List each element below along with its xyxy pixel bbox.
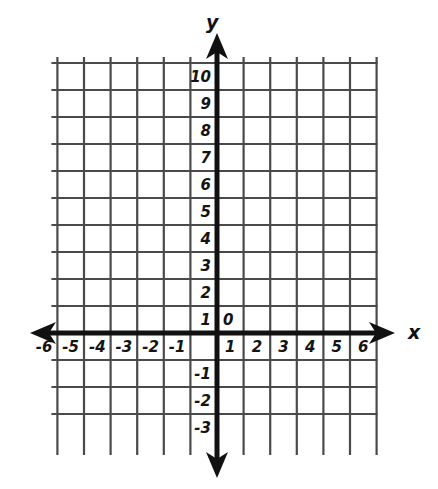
y-tick-label: 5 (201, 204, 211, 219)
y-tick-label: 4 (201, 231, 211, 246)
x-tick-label: -6 (36, 340, 53, 355)
y-tick-label: -2 (194, 393, 211, 408)
x-tick-label: 3 (278, 340, 288, 355)
x-tick-label: 6 (358, 340, 368, 355)
x-tick-label: -4 (89, 340, 106, 355)
y-tick-label: 2 (201, 285, 211, 300)
y-tick-label: 6 (201, 177, 211, 192)
x-tick-label: 5 (331, 340, 341, 355)
x-tick-label: -2 (142, 340, 159, 355)
y-tick-label: 1 (201, 312, 211, 327)
y-tick-label: 9 (201, 96, 211, 111)
y-tick-label: 10 (190, 69, 211, 84)
y-axis-label: y (206, 13, 218, 32)
coordinate-plane-figure: -6-5-4-3-2-1123456 10987654321-1-2-3 x y… (0, 0, 438, 489)
y-tick-label: 8 (201, 123, 211, 138)
x-tick-label: 2 (252, 340, 262, 355)
x-tick-label: -3 (116, 340, 133, 355)
y-tick-label: -1 (194, 366, 211, 381)
grid-and-axes (0, 0, 438, 489)
y-tick-label: 7 (201, 150, 211, 165)
x-axis-label: x (408, 323, 420, 342)
origin-label: 0 (223, 313, 233, 328)
x-tick-label: -5 (62, 340, 79, 355)
x-tick-label: 4 (305, 340, 315, 355)
x-tick-label: 1 (225, 340, 235, 355)
y-tick-label: -3 (194, 420, 211, 435)
y-tick-label: 3 (201, 258, 211, 273)
x-tick-label: -1 (169, 340, 186, 355)
